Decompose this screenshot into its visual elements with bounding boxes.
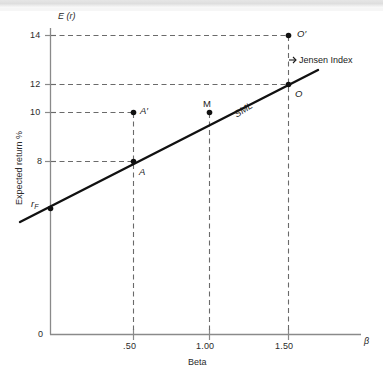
- axes-group: [50, 28, 361, 335]
- point-marker-M: [207, 110, 213, 116]
- point-marker-O: [286, 82, 292, 88]
- point-marker-A-prime: [131, 110, 137, 116]
- chart-figure: 14 12 10 8 0 .50 1.00 1.50 E (r) Expecte…: [0, 0, 383, 377]
- guide-lines: [51, 36, 289, 331]
- y-tick-label-0: 0: [38, 329, 43, 339]
- x-tick-label-150: 1.50: [275, 341, 293, 351]
- y-tick-label-14: 14: [30, 30, 40, 40]
- x-tick-label-050: .50: [123, 341, 136, 351]
- y-tick-label-8: 8: [37, 156, 42, 166]
- jensen-index-label: Jensen Index: [299, 55, 353, 65]
- x-tick-label-100: 1.00: [196, 341, 214, 351]
- x-axis-title: Beta: [188, 357, 207, 367]
- point-marker-rf: [48, 206, 54, 212]
- point-label-A: A: [139, 166, 145, 177]
- point-label-M: M: [203, 98, 211, 109]
- y-axis-symbol-label: E (r): [58, 11, 76, 21]
- data-point-markers: [48, 33, 292, 212]
- point-label-O-prime: O′: [297, 28, 306, 39]
- point-marker-O-prime: [286, 33, 292, 39]
- risk-free-rate-label: rF: [31, 198, 38, 210]
- y-tick-label-10: 10: [30, 107, 40, 117]
- sml-line: [20, 70, 318, 222]
- y-axis-title: Expected return %: [14, 131, 24, 205]
- point-marker-A: [131, 159, 137, 165]
- point-label-A-prime: A′: [140, 105, 148, 116]
- point-label-O: O: [295, 88, 302, 99]
- y-tick-label-12: 12: [30, 79, 40, 89]
- jensen-index-bracket: [289, 57, 296, 63]
- risk-free-rate-subscript: F: [34, 203, 38, 210]
- x-axis-symbol-label: β: [364, 336, 369, 346]
